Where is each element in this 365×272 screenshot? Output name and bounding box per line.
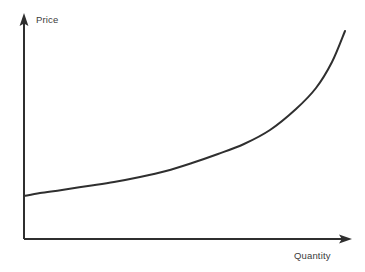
- supply-curve-figure: Price Quantity: [0, 0, 365, 272]
- chart-canvas: [0, 0, 365, 272]
- y-axis-label: Price: [36, 15, 58, 25]
- x-axis-label: Quantity: [294, 251, 331, 261]
- supply-curve-line: [24, 31, 345, 196]
